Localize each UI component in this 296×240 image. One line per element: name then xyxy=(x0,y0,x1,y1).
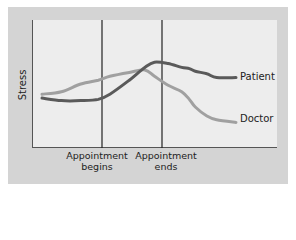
patient-series-line xyxy=(42,62,236,101)
marker-label-line: begins xyxy=(66,161,128,172)
marker-label-line: Appointment xyxy=(66,150,128,161)
marker-label-line: ends xyxy=(135,161,197,172)
x-marker-label-begins: Appointment begins xyxy=(66,150,128,172)
legend-patient: Patient xyxy=(240,71,275,82)
doctor-series-line xyxy=(42,70,236,123)
marker-label-line: Appointment xyxy=(135,150,197,161)
x-marker-label-ends: Appointment ends xyxy=(135,150,197,172)
y-axis-label: Stress xyxy=(17,70,28,101)
legend-doctor: Doctor xyxy=(240,113,273,124)
